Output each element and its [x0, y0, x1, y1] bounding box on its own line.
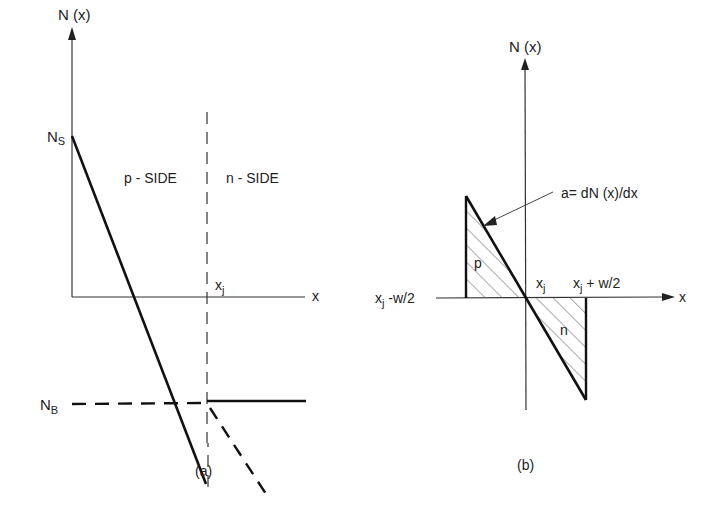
nb-label: NB	[40, 396, 58, 416]
right-bound-label: xj + w/2	[573, 275, 620, 294]
b-x-axis-label: x	[679, 289, 686, 305]
n-side-label: n - SIDE	[226, 170, 279, 186]
pn-junction-diagram: N (x) x NS p - SIDE n - SIDE xj NB (a) N…	[0, 0, 722, 522]
n-region-label: n	[560, 322, 568, 338]
b-y-axis-label: N (x)	[509, 38, 542, 55]
gradient-annotation: a= dN (x)/dx	[561, 185, 638, 201]
b-y-axis-arrow-icon	[521, 58, 529, 70]
panel-b: N (x) x p n a= dN (x)/dx xj xj + w/2 xj …	[375, 38, 686, 473]
a-xj-label: xj	[215, 277, 224, 296]
a-y-axis-arrow-icon	[68, 27, 76, 40]
annotation-arrow-icon	[483, 216, 497, 226]
b-xj-label: xj	[536, 275, 545, 294]
p-side-label: p - SIDE	[124, 170, 177, 186]
panel-a: N (x) x NS p - SIDE n - SIDE xj NB (a)	[40, 6, 319, 494]
a-x-axis-label: x	[312, 288, 319, 304]
nb-dashed-line	[72, 403, 206, 404]
doping-profile-line	[72, 136, 206, 484]
b-caption: (b)	[517, 457, 534, 473]
b-x-axis-arrow-icon	[662, 293, 675, 301]
annotation-leader-line	[490, 192, 553, 222]
a-caption: (a)	[195, 463, 212, 479]
a-y-axis-label: N (x)	[58, 6, 91, 23]
ns-label: NS	[47, 128, 65, 147]
p-region-label: p	[474, 255, 482, 271]
b-y-axis	[525, 66, 526, 410]
left-bound-label: xj -w/2	[375, 290, 415, 309]
profile-dashed-extension	[210, 408, 266, 494]
